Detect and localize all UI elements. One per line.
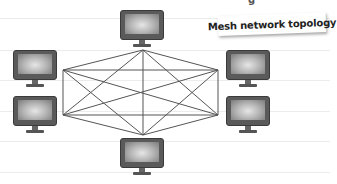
monitor-icon	[226, 50, 270, 80]
monitor-screen	[231, 100, 265, 120]
monitor-base	[26, 84, 44, 87]
monitor-icon	[120, 10, 164, 40]
computer-node-left-bottom	[13, 96, 57, 134]
monitor-screen	[18, 54, 52, 74]
computer-node-top	[120, 10, 164, 48]
monitor-base	[26, 130, 44, 133]
diagram-title: Mesh network topology	[208, 16, 337, 31]
monitor-screen	[18, 100, 52, 120]
monitor-icon	[226, 96, 270, 126]
monitor-icon	[13, 96, 57, 126]
computer-node-right-bottom	[226, 96, 270, 134]
monitor-icon	[13, 50, 57, 80]
computer-node-right-top	[226, 50, 270, 88]
monitor-base	[133, 44, 151, 47]
monitor-screen	[125, 142, 159, 162]
monitor-screen	[231, 54, 265, 74]
diagram-title-card: Mesh network topology	[218, 12, 327, 36]
computer-node-bottom	[120, 138, 164, 176]
monitor-base	[133, 172, 151, 175]
computer-node-left-top	[13, 50, 57, 88]
monitor-icon	[120, 138, 164, 168]
monitor-screen	[125, 14, 159, 34]
monitor-base	[239, 130, 257, 133]
monitor-base	[239, 84, 257, 87]
